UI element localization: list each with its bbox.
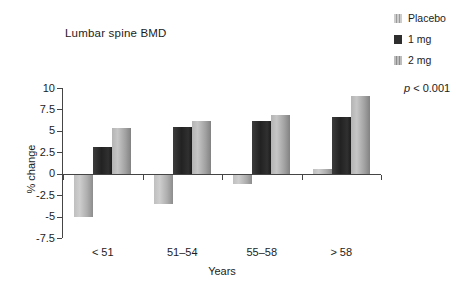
bar-placebo-1 [154, 174, 173, 204]
x-category-label: 55–58 [222, 246, 302, 258]
x-category-label: 51–54 [143, 246, 223, 258]
y-tick [57, 109, 62, 110]
y-tick-label: 7.5 [21, 103, 55, 115]
x-tick [63, 175, 64, 180]
x-tick [381, 175, 382, 180]
figure-canvas: Lumbar spine BMD Placebo 1 mg 2 mg p < 0… [0, 0, 456, 295]
y-tick-label: -5 [21, 210, 55, 222]
y-tick [57, 131, 62, 132]
y-tick [57, 88, 62, 89]
x-tick [302, 175, 303, 180]
y-tick [57, 217, 62, 218]
bar-1-mg-1 [173, 127, 192, 173]
bar-placebo-0 [74, 174, 93, 218]
legend-label-placebo: Placebo [408, 12, 446, 24]
legend-item-2mg: 2 mg [394, 54, 446, 66]
x-tick [222, 175, 223, 180]
bar-1-mg-3 [332, 117, 351, 174]
x-tick [143, 175, 144, 180]
bar-2-mg-0 [112, 128, 131, 173]
x-axis-line [62, 174, 381, 175]
y-tick [57, 238, 62, 239]
y-axis-title: % change [25, 143, 37, 195]
x-axis-title: Years [63, 265, 381, 277]
x-category-label: > 58 [302, 246, 382, 258]
x-category-label: < 51 [63, 246, 143, 258]
bar-1-mg-0 [93, 147, 112, 174]
p-value-text: < 0.001 [410, 82, 450, 94]
one-mg-swatch-icon [394, 35, 402, 44]
p-value-annotation: p < 0.001 [404, 82, 450, 94]
placebo-swatch-icon [394, 14, 402, 23]
bar-2-mg-1 [192, 121, 211, 174]
y-tick [57, 152, 62, 153]
bar-placebo-2 [233, 174, 252, 184]
two-mg-swatch-icon [394, 56, 402, 65]
y-tick-label: 10 [21, 82, 55, 94]
y-tick-label: -7.5 [21, 232, 55, 244]
bar-2-mg-2 [271, 115, 290, 173]
legend: Placebo 1 mg 2 mg [394, 12, 446, 75]
legend-label-2mg: 2 mg [408, 54, 431, 66]
y-axis-line [62, 88, 63, 238]
bar-1-mg-2 [252, 121, 271, 174]
y-tick-label: 5 [21, 124, 55, 136]
bar-2-mg-3 [351, 96, 370, 174]
legend-item-1mg: 1 mg [394, 33, 446, 45]
legend-label-1mg: 1 mg [408, 33, 431, 45]
chart-title: Lumbar spine BMD [65, 27, 167, 39]
legend-item-placebo: Placebo [394, 12, 446, 24]
y-tick [57, 195, 62, 196]
